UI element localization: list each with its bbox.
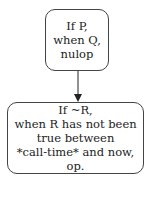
node-line: *call-time* and now, (17, 145, 134, 159)
node-if-not-r: If ~R, when R has not been true between … (7, 102, 144, 174)
node-line: true between (37, 131, 115, 145)
node-line: when R has not been (14, 117, 136, 131)
node-line: op. (67, 159, 85, 173)
node-line: If ~R, (58, 103, 92, 117)
